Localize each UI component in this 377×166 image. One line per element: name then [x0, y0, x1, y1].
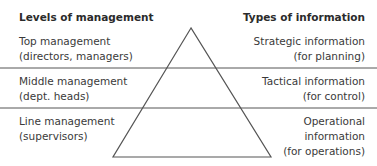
- info-tactical-title: Tactical information: [262, 74, 365, 89]
- level-top-title: Top management: [19, 34, 110, 49]
- info-strategic-title: Strategic information: [254, 34, 365, 49]
- pyramid-triangle: [113, 28, 271, 157]
- info-header: Types of information: [243, 10, 365, 25]
- level-line-title: Line management: [19, 114, 115, 129]
- level-middle-title: Middle management: [19, 74, 127, 89]
- info-operational-mid: information: [304, 129, 365, 144]
- info-tactical-sub: (for control): [303, 89, 365, 104]
- info-operational-sub: (for operations): [283, 144, 365, 159]
- level-middle-sub: (dept. heads): [19, 89, 89, 104]
- level-line-sub: (supervisors): [19, 129, 88, 144]
- info-operational-title: Operational: [303, 114, 365, 129]
- info-strategic-sub: (for planning): [293, 49, 365, 64]
- levels-header: Levels of management: [19, 10, 154, 25]
- level-top-sub: (directors, managers): [19, 49, 133, 64]
